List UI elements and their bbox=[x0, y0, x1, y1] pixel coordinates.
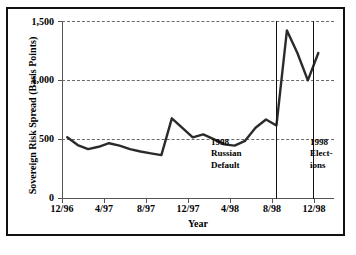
y-tick-label-1000: 1,000 bbox=[8, 74, 54, 85]
annotation-elections-line3: ions bbox=[310, 160, 333, 171]
x-tick-label-4-98: 4/98 bbox=[206, 203, 254, 214]
x-tick-label-12-98: 12/98 bbox=[290, 203, 338, 214]
x-tick-label-8-97: 8/97 bbox=[122, 203, 170, 214]
data-line-sovereign-risk-spread bbox=[62, 21, 334, 199]
x-tick-label-8-98: 8/98 bbox=[248, 203, 296, 214]
annotation-elections-line1: 1998 bbox=[310, 137, 333, 148]
y-axis-ticks: 1,500 1,000 500 0 bbox=[0, 0, 62, 255]
annotation-elections-line2: Elect- bbox=[310, 148, 333, 159]
chart-figure: Sovereign Risk Spread (Basis Points) 1,5… bbox=[0, 0, 356, 255]
x-tick-label-12-97: 12/97 bbox=[164, 203, 212, 214]
y-tick-label-0: 0 bbox=[8, 192, 54, 203]
x-axis-title: Year bbox=[62, 218, 334, 229]
annotation-russian-default-line1: 1998 bbox=[211, 137, 242, 148]
annotation-russian-default: 1998 Russian Default bbox=[211, 137, 242, 171]
event-line-russian-default bbox=[276, 21, 277, 199]
y-tick-label-500: 500 bbox=[8, 133, 54, 144]
event-line-elections bbox=[313, 21, 314, 199]
annotation-elections: 1998 Elect- ions bbox=[310, 137, 333, 171]
annotation-russian-default-line2: Russian bbox=[211, 148, 242, 159]
plot-area bbox=[62, 21, 334, 199]
x-tick-label-4-97: 4/97 bbox=[80, 203, 128, 214]
x-tick-label-12-96: 12/96 bbox=[38, 203, 86, 214]
y-tick-label-1500: 1,500 bbox=[8, 16, 54, 27]
annotation-russian-default-line3: Default bbox=[211, 160, 242, 171]
